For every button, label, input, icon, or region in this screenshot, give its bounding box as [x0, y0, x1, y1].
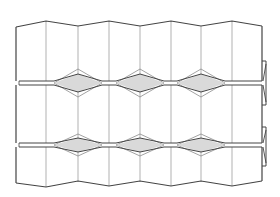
seam-bands — [16, 69, 262, 156]
lower-seam — [16, 134, 262, 156]
diamond-fill — [177, 138, 225, 152]
fold-lines — [46, 21, 232, 187]
panel-outline — [16, 21, 262, 187]
top-edge — [16, 21, 262, 27]
folded-panel-diagram — [0, 0, 280, 197]
diamond-fill — [54, 74, 102, 92]
diamond-fill — [177, 74, 225, 92]
diamond-fill — [116, 74, 164, 92]
diamond-fill — [116, 138, 164, 152]
diamond-fill — [54, 138, 102, 152]
bottom-edge — [16, 181, 262, 187]
upper-seam — [16, 69, 262, 97]
